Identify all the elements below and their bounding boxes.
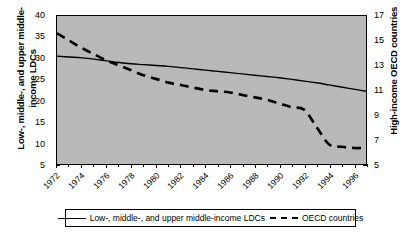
y-tick-label-left: 10 — [23, 139, 45, 149]
legend-item-oecd: OECD countries — [270, 213, 363, 223]
y-tick-label-left: 25 — [23, 74, 45, 84]
chart-legend: Low-, middle-, and upper middle-income L… — [65, 209, 356, 227]
legend-swatch-dashed-icon — [270, 217, 298, 219]
y-tick-label-left: 15 — [23, 117, 45, 127]
y-tick-label-left: 20 — [23, 96, 45, 106]
plot-area — [56, 15, 367, 165]
y-tick-label-right: 9 — [374, 110, 396, 120]
y-tick-label-right: 5 — [374, 160, 396, 170]
x-tick-mark — [367, 164, 368, 167]
y-tick-label-right: 7 — [374, 135, 396, 145]
chart-figure: Low-, middle-, and upper middle-income L… — [0, 0, 420, 236]
legend-label-oecd: OECD countries — [302, 213, 363, 223]
series-line-ldc — [57, 56, 366, 91]
y-tick-label-left: 5 — [23, 160, 45, 170]
y-tick-label-right: 15 — [374, 35, 396, 45]
series-line-oecd — [57, 33, 366, 148]
y-tick-label-left: 35 — [23, 31, 45, 41]
plot-canvas — [57, 16, 366, 164]
y-axis-right-title: High-income OECD countries — [388, 0, 400, 146]
y-tick-label-right: 13 — [374, 60, 396, 70]
legend-label-ldc: Low-, middle-, and upper middle-income L… — [90, 213, 265, 223]
legend-swatch-solid-icon — [58, 218, 86, 219]
y-tick-label-left: 40 — [23, 10, 45, 20]
legend-item-ldc: Low-, middle-, and upper middle-income L… — [58, 213, 265, 223]
y-tick-label-right: 11 — [374, 85, 396, 95]
y-tick-label-right: 17 — [374, 10, 396, 20]
y-tick-label-left: 30 — [23, 53, 45, 63]
